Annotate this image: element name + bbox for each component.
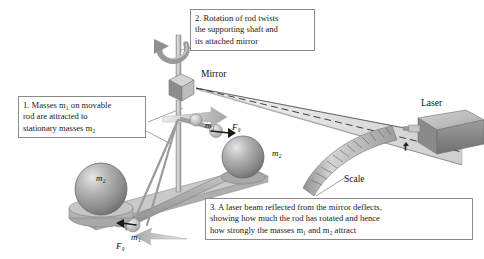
shaft-lower xyxy=(176,100,181,192)
callout-2-line-2: the supporting shaft and xyxy=(195,24,310,35)
label-laser: Laser xyxy=(421,98,442,108)
callout-3-line-1: 3. A laser beam reflected from the mirro… xyxy=(210,202,468,213)
label-fg-right: F₉ xyxy=(232,122,241,132)
force-arrow-left xyxy=(134,228,187,245)
callout-1-line-1: 1. Masses m₁ on movable xyxy=(23,100,141,111)
label-scale: Scale xyxy=(344,174,365,184)
callout-3-line-2: showing how much the rod has rotated and… xyxy=(210,213,468,224)
label-m2-right: m₂ xyxy=(272,148,282,158)
callout-3-line-3: how strongly the masses m₁ and m₂ attrac… xyxy=(210,225,468,236)
large-mass-m2-right-group xyxy=(221,136,265,184)
callout-box-1: 1. Masses m₁ on movable rod are attracte… xyxy=(18,96,146,138)
large-mass-m2-left xyxy=(75,163,127,215)
callout-2-line-1: 2. Rotation of rod twists xyxy=(195,13,310,24)
label-mirror: Mirror xyxy=(201,69,226,79)
label-m1-right: m₁ xyxy=(205,120,215,130)
callout-1-line-3: stationary masses m₂ xyxy=(23,123,141,134)
callout-box-3: 3. A laser beam reflected from the mirro… xyxy=(205,198,473,240)
scale-arc xyxy=(303,126,397,196)
large-mass-m2-right xyxy=(222,136,264,178)
callout-2-line-3: its attached mirror xyxy=(195,36,310,47)
mirror-block xyxy=(169,74,194,101)
label-m2-left: m₂ xyxy=(96,173,106,183)
callout-box-2: 2. Rotation of rod twists the supporting… xyxy=(190,9,315,51)
label-m1-left: m₁ xyxy=(131,232,141,242)
callout-1-line-2: rod are attracted to xyxy=(23,111,141,122)
label-fg-left: F₉ xyxy=(116,241,125,251)
scale-band xyxy=(303,126,397,196)
figure-canvas: 1. Masses m₁ on movable rod are attracte… xyxy=(0,0,484,259)
small-mass-m1-right-b xyxy=(190,114,202,126)
